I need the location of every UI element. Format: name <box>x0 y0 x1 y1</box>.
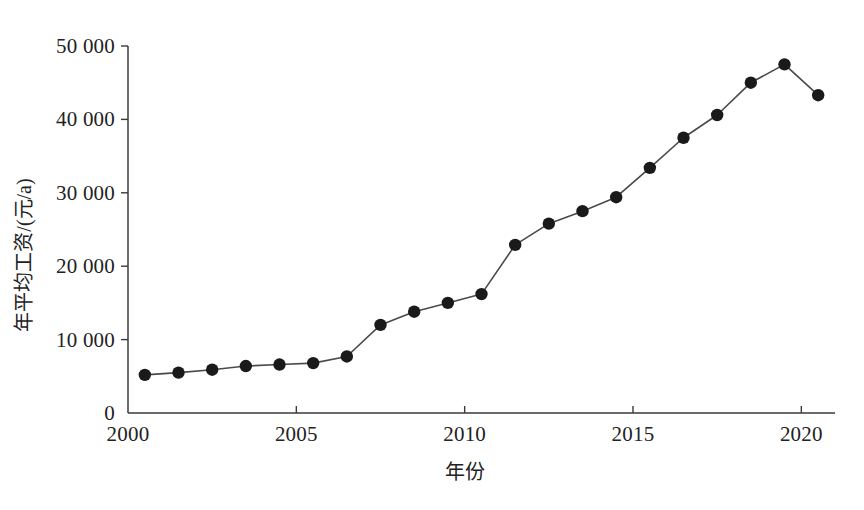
data-point-markers <box>139 58 825 381</box>
y-tick-label: 30 000 <box>56 182 115 203</box>
x-tick-label: 2015 <box>612 424 655 445</box>
data-point-marker <box>273 358 285 370</box>
data-point-marker <box>442 297 454 309</box>
x-tick-label: 2010 <box>443 424 486 445</box>
data-point-marker <box>745 77 757 89</box>
data-point-marker <box>711 109 723 121</box>
data-point-marker <box>172 366 184 378</box>
data-point-marker <box>475 288 487 300</box>
data-point-marker <box>677 132 689 144</box>
data-point-marker <box>543 217 555 229</box>
y-tick-label: 40 000 <box>56 109 115 130</box>
data-point-marker <box>341 350 353 362</box>
x-tick-label: 2005 <box>275 424 318 445</box>
chart-tick-marks <box>121 46 801 413</box>
chart-figure: 010 00020 00030 00040 00050 000 20002005… <box>0 0 864 510</box>
y-axis-title: 年平均工资/(元/a) <box>8 178 37 331</box>
x-tick-label: 2000 <box>107 424 150 445</box>
data-point-marker <box>240 360 252 372</box>
data-point-marker <box>778 58 790 70</box>
data-point-marker <box>206 363 218 375</box>
data-point-marker <box>812 89 824 101</box>
x-axis-title: 年份 <box>445 456 485 485</box>
data-point-marker <box>610 191 622 203</box>
y-tick-label: 0 <box>104 403 115 424</box>
data-point-marker <box>374 319 386 331</box>
x-tick-label: 2020 <box>780 424 823 445</box>
data-point-marker <box>408 306 420 318</box>
data-point-marker <box>139 369 151 381</box>
data-point-marker <box>576 205 588 217</box>
data-point-marker <box>644 162 656 174</box>
data-point-marker <box>307 357 319 369</box>
y-tick-label: 50 000 <box>56 36 115 57</box>
chart-axes <box>128 46 835 413</box>
data-point-marker <box>509 239 521 251</box>
y-tick-label: 20 000 <box>56 256 115 277</box>
y-tick-label: 10 000 <box>56 329 115 350</box>
